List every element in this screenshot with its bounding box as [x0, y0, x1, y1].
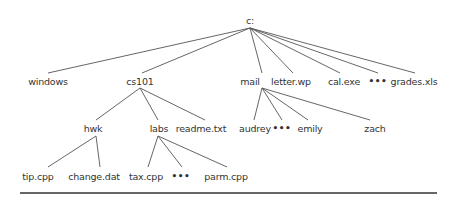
horizontal-rule — [20, 192, 437, 194]
tree-node-labs: labs — [150, 123, 169, 134]
edge-root-to-windows — [48, 28, 250, 73]
edge-mail-to-zach — [262, 88, 370, 120]
edge-root-to-root-more — [250, 28, 378, 73]
tree-node-change-dat: change.dat — [68, 171, 120, 182]
tree-edges — [0, 0, 456, 199]
edge-cs101-to-readme-txt — [140, 88, 205, 120]
tree-node-parm-cpp: parm.cpp — [204, 171, 248, 182]
edge-cs101-to-hwk — [96, 88, 140, 120]
tree-node-mail: mail — [240, 76, 260, 87]
edge-labs-to-parm-cpp — [158, 136, 227, 167]
tree-node-letter-wp: letter.wp — [271, 76, 311, 87]
edge-mail-to-audrey — [254, 88, 262, 120]
edge-root-to-cal-exe — [250, 28, 340, 73]
edge-hwk-to-tip-cpp — [48, 136, 96, 167]
ellipsis-node: ••• — [172, 171, 191, 181]
edge-root-to-grades-xls — [250, 28, 415, 73]
edge-hwk-to-change-dat — [96, 136, 100, 167]
edge-labs-to-labs-more — [158, 136, 182, 167]
tree-node-zach: zach — [364, 123, 385, 134]
tree-node-emily: emily — [298, 123, 323, 134]
tree-node-hwk: hwk — [84, 123, 103, 134]
tree-node-tax-cpp: tax.cpp — [129, 171, 163, 182]
tree-node-audrey: audrey — [239, 123, 271, 134]
tree-node-cs101: cs101 — [126, 76, 153, 87]
tree-node-windows: windows — [28, 76, 68, 87]
tree-node-root: c: — [246, 15, 254, 26]
directory-tree-diagram: c:windowscs101mailletter.wpcal.exe•••gra… — [0, 0, 456, 199]
tree-node-tip-cpp: tip.cpp — [22, 171, 53, 182]
tree-node-grades-xls: grades.xls — [391, 76, 438, 87]
tree-node-cal-exe: cal.exe — [328, 76, 360, 87]
edge-mail-to-emily — [262, 88, 308, 120]
ellipsis-node: ••• — [273, 123, 292, 133]
edge-root-to-cs101 — [142, 28, 250, 73]
tree-node-readme-txt: readme.txt — [176, 123, 227, 134]
edge-labs-to-tax-cpp — [148, 136, 158, 167]
ellipsis-node: ••• — [369, 76, 388, 86]
